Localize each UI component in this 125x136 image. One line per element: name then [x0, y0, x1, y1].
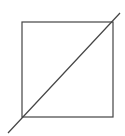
diagram-canvas [0, 0, 125, 136]
diagonal-line [8, 13, 120, 133]
